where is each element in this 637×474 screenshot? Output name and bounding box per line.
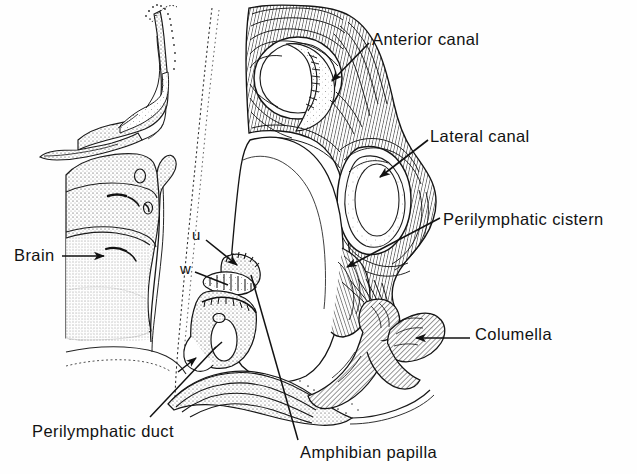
anatomy-illustration: [0, 0, 637, 474]
label-columella: Columella: [475, 326, 552, 343]
label-marker-w: w: [180, 261, 191, 276]
label-perilymphatic-cistern: Perilymphatic cistern: [443, 211, 604, 228]
label-amphibian-papilla: Amphibian papilla: [300, 444, 437, 461]
label-lateral-canal: Lateral canal: [430, 128, 530, 145]
label-marker-u: u: [192, 227, 200, 242]
label-brain: Brain: [14, 247, 55, 264]
label-anterior-canal: Anterior canal: [372, 31, 479, 48]
label-perilymphatic-duct: Perilymphatic duct: [32, 423, 174, 440]
anatomical-figure: Anterior canal Lateral canal Perilymphat…: [0, 0, 637, 474]
